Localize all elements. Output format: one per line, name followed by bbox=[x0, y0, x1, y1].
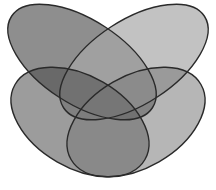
venn-diagram bbox=[0, 0, 216, 190]
